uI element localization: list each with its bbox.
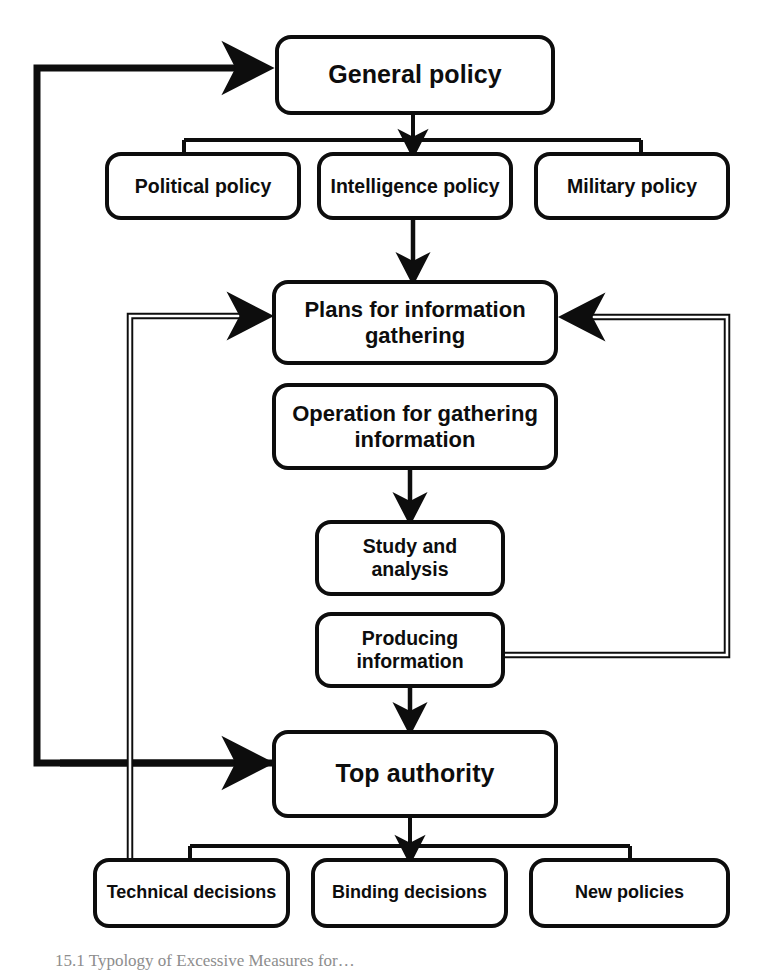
node-intelligence-policy[interactable]: Intelligence policy [317,152,513,220]
node-producing-information-label: Producinginformation [325,627,495,673]
node-intelligence-policy-label: Intelligence policy [327,175,503,198]
node-technical-decisions-label: Technical decisions [103,882,280,903]
node-political-policy[interactable]: Political policy [105,152,301,220]
node-operation-for-gathering-information-label: Operation for gatheringinformation [282,401,548,453]
node-top-authority-label: Top authority [282,759,548,789]
connector-general-to-policies [184,115,641,152]
node-study-and-analysis-label: Study andanalysis [325,535,495,581]
node-producing-information[interactable]: Producinginformation [315,612,505,688]
node-political-policy-label: Political policy [115,175,291,198]
node-military-policy[interactable]: Military policy [534,152,730,220]
node-general-policy[interactable]: General policy [275,35,555,115]
figure-caption: 15.1 Typology of Excessive Measures for… [55,950,755,971]
node-top-authority[interactable]: Top authority [272,730,558,818]
connector-feedback-technical-decisions-to-plans [130,316,262,858]
node-new-policies[interactable]: New policies [529,858,730,928]
node-new-policies-label: New policies [539,882,720,903]
node-plans-for-information-gathering[interactable]: Plans for informationgathering [272,280,558,365]
node-study-and-analysis[interactable]: Study andanalysis [315,520,505,596]
flowchart-canvas: General policy Political policy Intellig… [0,0,762,971]
node-binding-decisions[interactable]: Binding decisions [311,858,508,928]
node-plans-for-information-gathering-label: Plans for informationgathering [282,297,548,349]
node-binding-decisions-label: Binding decisions [321,882,498,903]
node-operation-for-gathering-information[interactable]: Operation for gatheringinformation [272,383,558,470]
connector-top-authority-to-decisions [190,818,630,858]
node-military-policy-label: Military policy [544,175,720,198]
connector-layer [0,0,762,971]
node-technical-decisions[interactable]: Technical decisions [93,858,290,928]
connector-feedback-producing-to-plans [505,317,727,655]
node-general-policy-label: General policy [285,60,545,90]
